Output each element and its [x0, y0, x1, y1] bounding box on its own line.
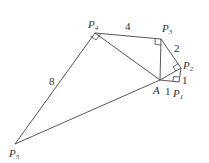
- right-angle-p1: [173, 77, 180, 82]
- length-p3-p4: 4: [125, 20, 131, 32]
- edge-p1-p2: [179, 68, 181, 82]
- label-p3: P3: [161, 22, 173, 36]
- label-p2: P2: [182, 59, 194, 73]
- label-p5: P5: [8, 147, 20, 161]
- right-angle-p3: [155, 39, 161, 46]
- edge-a-p1: [160, 80, 179, 82]
- length-p1-p2: 1: [182, 74, 188, 86]
- edge-a-p4: [95, 33, 160, 80]
- edge-p3-p4: [95, 33, 161, 39]
- edge-a-p2: [160, 68, 181, 80]
- edge-a-p5: [15, 80, 160, 144]
- label-a: A: [152, 84, 160, 96]
- right-angle-markers: [91, 34, 180, 82]
- label-p4: P4: [87, 18, 99, 32]
- geometry-diagram: P4 P3 P2 P1 A P5 4 2 1 1 8: [0, 0, 209, 163]
- length-p2-p3: 2: [174, 42, 180, 54]
- label-p1: P1: [172, 87, 183, 101]
- length-a-p1: 1: [165, 85, 171, 97]
- edge-p4-p5: [15, 33, 95, 144]
- length-p4-p5: 8: [49, 75, 55, 87]
